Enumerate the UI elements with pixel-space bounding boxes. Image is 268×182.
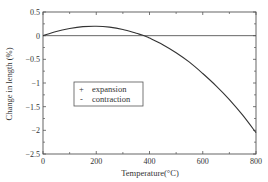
- y-tick-label: 0: [36, 32, 40, 41]
- y-tick-label: −1.5: [25, 103, 40, 112]
- legend-marker-expansion: +: [79, 84, 84, 94]
- y-tick-label: −2: [31, 126, 40, 135]
- y-tick-label: −1: [31, 79, 40, 88]
- legend: + expansion - contraction: [74, 82, 143, 106]
- x-tick-label: 200: [90, 157, 102, 166]
- y-tick-label: −0.5: [25, 55, 40, 64]
- y-tick-label: 0.5: [30, 8, 40, 17]
- legend-label-expansion: expansion: [92, 84, 127, 94]
- y-axis-title: Change in length (%): [4, 47, 14, 120]
- series-line: [43, 26, 256, 133]
- x-tick-label: 600: [197, 157, 209, 166]
- legend-marker-contraction: -: [80, 94, 83, 104]
- x-axis-title: Temperature(°C): [121, 168, 179, 178]
- line-chart: 0.50−0.5−1−1.5−2−2.5 0200400600800 + exp…: [0, 0, 268, 182]
- x-tick-label: 800: [250, 157, 262, 166]
- legend-label-contraction: contraction: [92, 94, 131, 104]
- y-tick-label: −2.5: [25, 150, 40, 159]
- x-tick-label: 0: [41, 157, 45, 166]
- x-tick-label: 400: [144, 157, 156, 166]
- data-series: [43, 26, 256, 133]
